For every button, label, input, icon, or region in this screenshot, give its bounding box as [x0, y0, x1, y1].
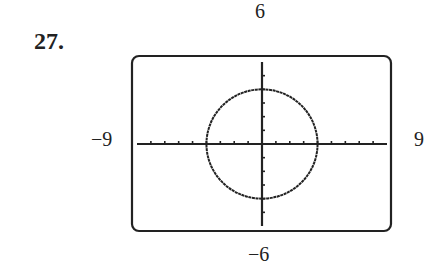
axes	[137, 62, 387, 226]
calculator-screen	[0, 0, 442, 274]
